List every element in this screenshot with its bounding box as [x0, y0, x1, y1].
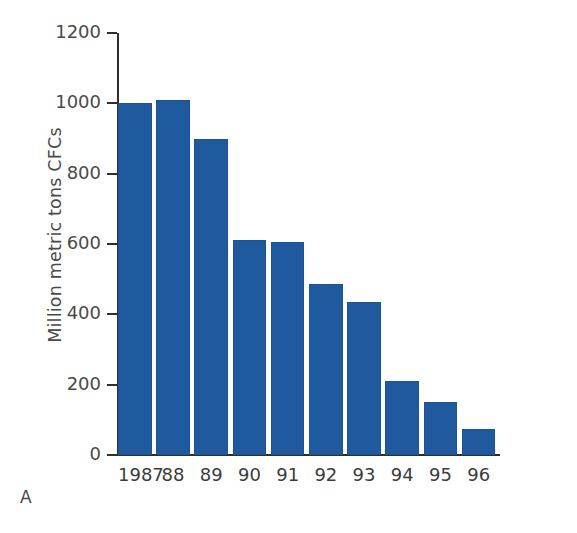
y-tick-mark [107, 454, 117, 456]
bar[interactable] [385, 381, 419, 455]
x-tick-label: 1987 [118, 464, 152, 485]
y-tick-mark [107, 313, 117, 315]
y-tick-label: 1000 [55, 91, 101, 112]
bar[interactable] [233, 240, 267, 455]
y-axis-title: Million metric tons CFCs [45, 70, 65, 400]
y-tick-mark [107, 102, 117, 104]
x-tick-label: 92 [309, 464, 343, 485]
y-tick-label: 0 [90, 443, 101, 464]
x-tick-label: 95 [424, 464, 458, 485]
bar[interactable] [271, 242, 305, 455]
y-tick-label: 1200 [55, 21, 101, 42]
y-tick-label: 200 [67, 373, 101, 394]
y-tick-mark [107, 32, 117, 34]
y-tick-label: 600 [67, 232, 101, 253]
bar[interactable] [156, 100, 190, 455]
y-tick-mark [107, 384, 117, 386]
y-tick-label: 400 [67, 302, 101, 323]
x-tick-label: 88 [156, 464, 190, 485]
panel-letter: A [20, 487, 32, 507]
x-tick-label: 90 [233, 464, 267, 485]
y-tick-mark [107, 173, 117, 175]
bar[interactable] [194, 139, 228, 456]
bar[interactable] [347, 302, 381, 455]
bar[interactable] [462, 429, 496, 455]
bar[interactable] [309, 284, 343, 455]
bar[interactable] [424, 402, 458, 455]
x-tick-label: 89 [194, 464, 228, 485]
x-tick-label: 94 [385, 464, 419, 485]
plot-area [118, 33, 500, 455]
x-tick-label: 96 [462, 464, 496, 485]
y-tick-label: 800 [67, 162, 101, 183]
x-tick-label: 93 [347, 464, 381, 485]
bar-chart-figure: Million metric tons CFCs 020040060080010… [0, 0, 577, 533]
y-tick-mark [107, 243, 117, 245]
x-tick-label: 91 [271, 464, 305, 485]
bar[interactable] [118, 103, 152, 455]
